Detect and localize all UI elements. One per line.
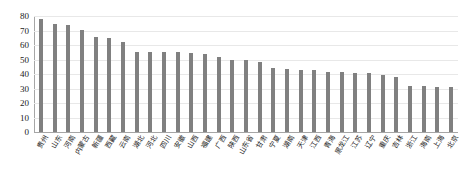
x-axis-tick-label: 江西: [310, 134, 323, 150]
bar: [312, 70, 316, 132]
bar: [435, 87, 439, 132]
y-axis-tick-label: 30: [20, 84, 29, 93]
bar: [217, 57, 221, 132]
x-axis-tick-label: 浙江: [406, 134, 419, 150]
bar: [230, 60, 234, 133]
bar: [162, 52, 166, 132]
x-axis-tick-label: 广西: [215, 134, 228, 150]
bar: [258, 62, 262, 132]
y-axis-tick-label: 40: [20, 70, 29, 79]
bar: [271, 68, 275, 132]
x-axis-tick-label: 云南: [119, 134, 132, 150]
bar: [449, 87, 453, 132]
y-axis-tick-label: 20: [20, 99, 29, 108]
x-axis-tick-label: 新疆: [92, 134, 105, 150]
bar: [203, 54, 207, 132]
x-axis-tick-label: 重庆: [379, 134, 392, 150]
x-axis-tick-label: 北京: [447, 134, 460, 150]
x-axis-tick-label: 辽宁: [365, 134, 378, 150]
bar: [326, 72, 330, 132]
plot-area: [34, 16, 458, 132]
x-axis-tick-label: 福建: [201, 134, 214, 150]
bar: [422, 86, 426, 132]
bar: [408, 86, 412, 132]
x-axis-tick-label: 甘肃: [256, 134, 269, 150]
y-axis-tick-labels: 01020304050607080: [0, 16, 31, 132]
bar: [299, 70, 303, 132]
y-axis-tick-label: 60: [20, 41, 29, 50]
bar: [285, 69, 289, 132]
y-axis-tick-label: 70: [20, 26, 29, 35]
x-axis-tick-label: 江苏: [351, 134, 364, 150]
bar: [80, 30, 84, 132]
bar: [244, 60, 248, 133]
x-axis-tick-label: 河北: [146, 134, 159, 150]
bar: [381, 75, 385, 132]
bar-chart: 01020304050607080 贵州山东河南内蒙古新疆西藏云南湖北河北四川安…: [0, 0, 462, 176]
y-axis-tick-label: 0: [25, 128, 30, 137]
bar: [340, 72, 344, 132]
bar: [394, 77, 398, 132]
bar: [189, 53, 193, 132]
bar: [66, 25, 70, 132]
bar: [148, 52, 152, 132]
y-axis-tick-label: 10: [20, 113, 29, 122]
y-axis-tick-label: 80: [20, 12, 29, 21]
x-axis-tick-label: 天津: [297, 134, 310, 150]
bar: [94, 37, 98, 132]
x-axis-tick-label: 湖南: [283, 134, 296, 150]
x-axis-tick-label: 湖北: [133, 134, 146, 150]
bar-series: [34, 16, 458, 132]
bar: [353, 73, 357, 132]
bar: [53, 24, 57, 132]
bar: [39, 19, 43, 132]
x-axis-tick-label: 海南: [420, 134, 433, 150]
bar: [121, 42, 125, 132]
x-axis-tick-labels: 贵州山东河南内蒙古新疆西藏云南湖北河北四川安徽山西福建广西陕西山东省甘肃宁夏湖南…: [34, 134, 458, 176]
x-axis-tick-label: 安徽: [174, 134, 187, 150]
x-axis-tick-label: 山西: [187, 134, 200, 150]
x-axis-tick-label: 四川: [160, 134, 173, 150]
y-axis-tick-label: 50: [20, 55, 29, 64]
x-axis-tick-label: 西藏: [105, 134, 118, 150]
bar: [135, 52, 139, 132]
x-axis-tick-label: 吉林: [392, 134, 405, 150]
x-axis-tick-label: 上海: [433, 134, 446, 150]
bar: [367, 73, 371, 132]
bar: [107, 38, 111, 132]
x-axis-tick-label: 山东: [51, 134, 64, 150]
bar: [176, 52, 180, 132]
x-axis-tick-label: 宁夏: [269, 134, 282, 150]
x-axis-tick-label: 贵州: [37, 134, 50, 150]
